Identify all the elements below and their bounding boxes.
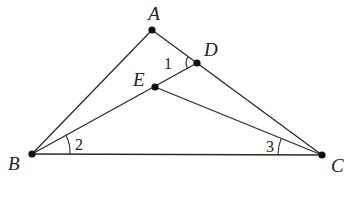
angle-labels: 1 2 3 [75,55,274,155]
angle-label-2: 2 [75,136,83,153]
label-A: A [146,3,160,24]
point-C [318,151,325,158]
point-A [148,26,155,33]
point-B [28,150,35,157]
label-D: D [203,39,218,60]
label-C: C [331,155,344,176]
segment-AC [152,30,322,155]
angle-1-arc [186,57,188,69]
angle-2-arc [66,135,70,154]
geometry-figure: A D E B C 1 2 3 [0,0,355,215]
point-labels: A D E B C [8,3,344,176]
label-E: E [132,69,145,90]
angle-label-3: 3 [266,138,274,155]
angle-label-1: 1 [164,55,172,72]
point-D [193,59,200,66]
angle-3-arc [278,138,281,155]
label-B: B [8,153,20,174]
segment-AB [32,30,152,154]
segment-EC [155,87,322,155]
angle-arcs [66,57,281,155]
point-E [151,83,158,90]
segment-BD [32,63,197,154]
